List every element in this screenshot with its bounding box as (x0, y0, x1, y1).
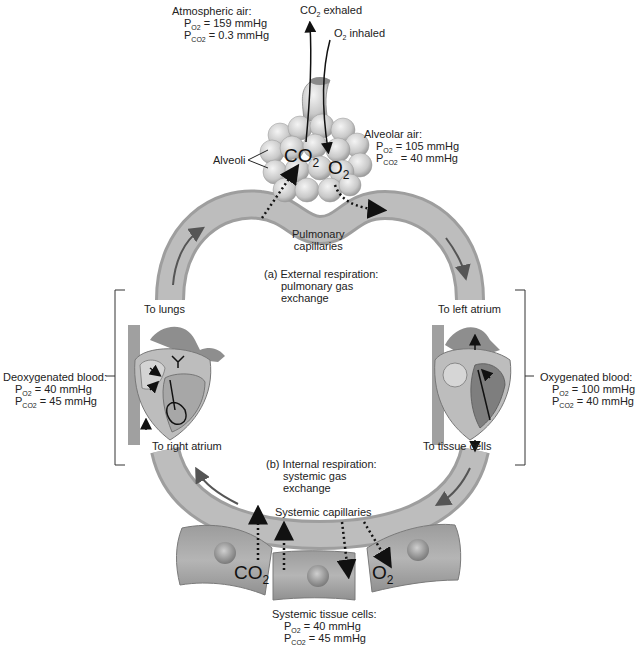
alveolar-air-title: Alveolar air: (364, 128, 459, 140)
internal-respiration-line2: systemic gas (266, 470, 377, 482)
heart-left-side-highlight (432, 325, 511, 448)
pulmonary-capillaries-line2: capillaries (292, 240, 345, 252)
systemic-capillaries-label: Systemic capillaries (275, 506, 372, 518)
bracket-left (106, 290, 125, 465)
deoxygenated-blood-label: Deoxygenated blood: PO2 = 40 mmHg PCO2 =… (3, 371, 107, 407)
atmospheric-po2: PO2 = 159 mmHg (172, 17, 269, 29)
alveoli-cluster (260, 77, 372, 202)
external-respiration-line3: exchange (264, 292, 378, 304)
alveoli-o2-label: O2 (328, 158, 349, 178)
pulmonary-capillaries-line1: Pulmonary (292, 228, 345, 240)
alveolar-po2: PO2 = 105 mmHg (364, 140, 459, 152)
gas-exchange-diagram (0, 0, 636, 655)
oxygenated-po2: PO2 = 100 mmHg (540, 383, 635, 395)
deoxygenated-pco2: PCO2 = 45 mmHg (3, 395, 107, 407)
pulmonary-capillaries-label: Pulmonary capillaries (292, 228, 345, 252)
to-tissue-cells-label: To tissue cells (423, 440, 491, 452)
deoxygenated-blood-title: Deoxygenated blood: (3, 371, 107, 383)
oxygenated-pco2: PCO2 = 40 mmHg (540, 395, 635, 407)
tissue-co2-label: CO2 (234, 563, 269, 583)
external-respiration-label: (a) External respiration: pulmonary gas … (264, 268, 378, 304)
deoxygenated-po2: PO2 = 40 mmHg (3, 383, 107, 395)
systemic-tissue-po2: PO2 = 40 mmHg (272, 620, 377, 632)
external-respiration-line1: (a) External respiration: (264, 268, 378, 280)
atmospheric-air-title: Atmospheric air: (172, 5, 269, 17)
systemic-tissue-cells-label: Systemic tissue cells: PO2 = 40 mmHg PCO… (272, 608, 377, 644)
oxygenated-blood-label: Oxygenated blood: PO2 = 100 mmHg PCO2 = … (540, 371, 635, 407)
internal-respiration-line1: (b) Internal respiration: (266, 458, 377, 470)
alveoli-co2-label: CO2 (284, 146, 319, 166)
internal-respiration-line3: exchange (266, 482, 377, 494)
alveolar-pco2: PCO2 = 40 mmHg (364, 152, 459, 164)
oxygenated-blood-title: Oxygenated blood: (540, 371, 635, 383)
o2-inhaled-label: O2 inhaled (334, 27, 385, 39)
internal-respiration-label: (b) Internal respiration: systemic gas e… (266, 458, 377, 494)
heart-right-side-highlight (128, 325, 225, 445)
systemic-tissue-pco2: PCO2 = 45 mmHg (272, 632, 377, 644)
external-respiration-line2: pulmonary gas (264, 280, 378, 292)
alveoli-label: Alveoli (213, 154, 245, 166)
atmospheric-air-label: Atmospheric air: PO2 = 159 mmHg PCO2 = 0… (172, 5, 269, 41)
systemic-tissue-title: Systemic tissue cells: (272, 608, 377, 620)
to-right-atrium-label: To right atrium (152, 440, 222, 452)
tissue-o2-label: O2 (372, 563, 393, 583)
co2-exhaled-label: CO2 exhaled (300, 4, 362, 16)
to-left-atrium-label: To left atrium (438, 303, 501, 315)
atmospheric-pco2: PCO2 = 0.3 mmHg (172, 29, 269, 41)
bracket-right (515, 290, 534, 465)
alveolar-air-label: Alveolar air: PO2 = 105 mmHg PCO2 = 40 m… (364, 128, 459, 164)
to-lungs-label: To lungs (144, 303, 185, 315)
